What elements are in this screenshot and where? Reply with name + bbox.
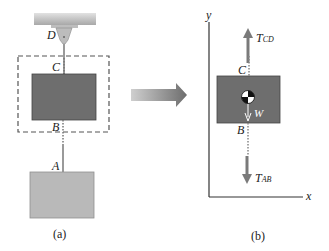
transition-arrow bbox=[131, 83, 187, 107]
force-label-tcd: TCD bbox=[256, 32, 274, 44]
block-lower bbox=[30, 172, 94, 218]
tcd-subscript: CD bbox=[263, 35, 274, 44]
label-b-a: B bbox=[52, 121, 59, 133]
tcd-main: T bbox=[256, 31, 263, 45]
tab-main: T bbox=[255, 171, 262, 185]
bracket-pin bbox=[63, 36, 65, 38]
label-w: W bbox=[254, 108, 263, 119]
center-of-gravity-icon bbox=[242, 91, 255, 104]
caption-a: (a) bbox=[53, 227, 66, 242]
label-c-b: C bbox=[238, 64, 246, 76]
label-a: A bbox=[52, 160, 59, 172]
label-b-b: B bbox=[237, 124, 244, 136]
ceiling bbox=[34, 13, 96, 25]
tab-arrow-head bbox=[242, 174, 252, 184]
x-axis-label: x bbox=[306, 190, 311, 202]
force-label-tab: TAB bbox=[255, 172, 271, 184]
y-axis-label: y bbox=[206, 9, 211, 21]
figure-a bbox=[18, 13, 109, 218]
label-c-a: C bbox=[52, 61, 60, 73]
caption-b: (b) bbox=[251, 229, 265, 244]
tcd-arrow-head bbox=[243, 28, 253, 38]
label-d: D bbox=[47, 29, 56, 41]
block-upper bbox=[32, 74, 96, 120]
tab-subscript: AB bbox=[262, 175, 272, 184]
